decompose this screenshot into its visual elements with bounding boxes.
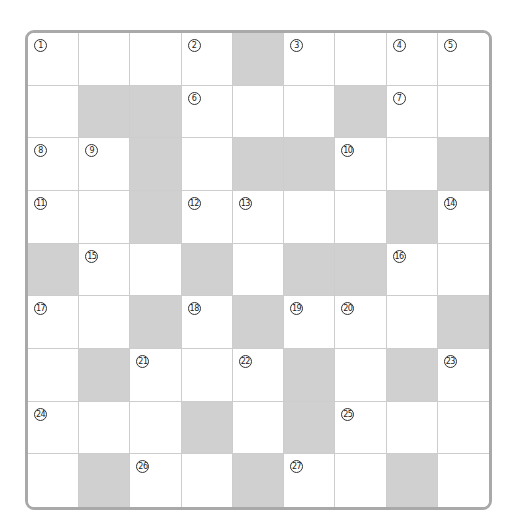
crossword-cell[interactable] <box>79 296 130 349</box>
crossword-cell[interactable] <box>438 244 489 297</box>
crossword-cell[interactable]: 22 <box>233 349 284 402</box>
crossword-cell[interactable]: 23 <box>438 349 489 402</box>
blocked-cell <box>284 138 335 191</box>
crossword-cell[interactable] <box>182 138 233 191</box>
crossword-cell[interactable]: 21 <box>130 349 181 402</box>
blocked-cell <box>335 86 386 139</box>
crossword-cell[interactable]: 9 <box>79 138 130 191</box>
crossword-cell[interactable] <box>28 454 79 507</box>
clue-number: 15 <box>85 250 98 263</box>
blocked-cell <box>284 244 335 297</box>
blocked-cell <box>130 191 181 244</box>
clue-number: 16 <box>393 250 406 263</box>
crossword-cell[interactable] <box>335 349 386 402</box>
crossword-cell[interactable]: 5 <box>438 33 489 86</box>
crossword-cell[interactable]: 2 <box>182 33 233 86</box>
clue-number: 8 <box>34 144 47 157</box>
crossword-cell[interactable] <box>284 191 335 244</box>
crossword-cell[interactable] <box>387 402 438 455</box>
blocked-cell <box>79 86 130 139</box>
clue-number: 7 <box>393 92 406 105</box>
crossword-cell[interactable]: 20 <box>335 296 386 349</box>
crossword-cell[interactable]: 17 <box>28 296 79 349</box>
crossword-cell[interactable]: 6 <box>182 86 233 139</box>
clue-number: 4 <box>393 39 406 52</box>
clue-number: 20 <box>341 302 354 315</box>
blocked-cell <box>387 349 438 402</box>
blocked-cell <box>233 296 284 349</box>
crossword-cell[interactable] <box>79 191 130 244</box>
crossword-cell[interactable]: 15 <box>79 244 130 297</box>
crossword-cell[interactable] <box>335 33 386 86</box>
clue-number: 21 <box>136 355 149 368</box>
clue-number: 12 <box>188 197 201 210</box>
clue-number: 27 <box>290 460 303 473</box>
crossword-cell[interactable]: 8 <box>28 138 79 191</box>
crossword-cell[interactable] <box>438 402 489 455</box>
crossword-cell[interactable] <box>182 454 233 507</box>
clue-number: 9 <box>85 144 98 157</box>
crossword-cell[interactable] <box>335 191 386 244</box>
clue-number: 3 <box>290 39 303 52</box>
blocked-cell <box>182 402 233 455</box>
clue-number: 5 <box>444 39 457 52</box>
crossword-cell[interactable] <box>335 454 386 507</box>
crossword-cell[interactable] <box>233 86 284 139</box>
blocked-cell <box>130 138 181 191</box>
crossword-cell[interactable]: 11 <box>28 191 79 244</box>
crossword-cell[interactable]: 10 <box>335 138 386 191</box>
crossword-cell[interactable]: 19 <box>284 296 335 349</box>
clue-number: 25 <box>341 408 354 421</box>
crossword-cell[interactable] <box>130 33 181 86</box>
crossword-cell[interactable] <box>438 454 489 507</box>
crossword-cell[interactable] <box>233 402 284 455</box>
crossword-cell[interactable] <box>130 402 181 455</box>
crossword-cell[interactable] <box>28 349 79 402</box>
crossword-cell[interactable] <box>130 244 181 297</box>
blocked-cell <box>284 402 335 455</box>
crossword-cell[interactable]: 4 <box>387 33 438 86</box>
blocked-cell <box>233 138 284 191</box>
crossword-cell[interactable]: 14 <box>438 191 489 244</box>
clue-number: 13 <box>239 197 252 210</box>
blocked-cell <box>284 349 335 402</box>
blocked-cell <box>233 454 284 507</box>
crossword-cell[interactable] <box>233 244 284 297</box>
crossword-cell[interactable] <box>438 86 489 139</box>
blocked-cell <box>182 244 233 297</box>
blocked-cell <box>79 454 130 507</box>
blocked-cell <box>130 296 181 349</box>
crossword-cell[interactable]: 1 <box>28 33 79 86</box>
blocked-cell <box>387 191 438 244</box>
clue-number: 11 <box>34 197 47 210</box>
crossword-cell[interactable]: 24 <box>28 402 79 455</box>
crossword-cell[interactable]: 7 <box>387 86 438 139</box>
crossword-cell[interactable] <box>28 86 79 139</box>
crossword-cell[interactable] <box>284 86 335 139</box>
blocked-cell <box>438 296 489 349</box>
crossword-cell[interactable] <box>79 33 130 86</box>
clue-number: 24 <box>34 408 47 421</box>
blocked-cell <box>438 138 489 191</box>
crossword-cell[interactable] <box>387 138 438 191</box>
crossword-cell[interactable]: 26 <box>130 454 181 507</box>
crossword-cell[interactable]: 12 <box>182 191 233 244</box>
clue-number: 2 <box>188 39 201 52</box>
crossword-cell[interactable]: 25 <box>335 402 386 455</box>
crossword-cell[interactable]: 13 <box>233 191 284 244</box>
crossword-cell[interactable] <box>79 402 130 455</box>
blocked-cell <box>28 244 79 297</box>
crossword-cell[interactable] <box>387 296 438 349</box>
clue-number: 10 <box>341 144 354 157</box>
crossword-cell[interactable]: 3 <box>284 33 335 86</box>
clue-number: 18 <box>188 302 201 315</box>
clue-number: 6 <box>188 92 201 105</box>
crossword-cell[interactable]: 27 <box>284 454 335 507</box>
crossword-cell[interactable] <box>182 349 233 402</box>
blocked-cell <box>387 454 438 507</box>
blocked-cell <box>335 244 386 297</box>
crossword-cell[interactable]: 18 <box>182 296 233 349</box>
crossword-cell[interactable]: 16 <box>387 244 438 297</box>
clue-number: 17 <box>34 302 47 315</box>
crossword-frame: 1234567891011121314151617181920212223242… <box>25 30 492 510</box>
